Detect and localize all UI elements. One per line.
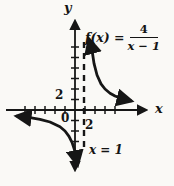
- function-equation-label: f(x) = 4 x − 1: [85, 22, 160, 53]
- origin-label: 0: [61, 112, 69, 124]
- function-fraction: 4 x − 1: [127, 22, 160, 53]
- asymptote-label: x = 1: [89, 144, 123, 156]
- function-prefix: f(x) =: [85, 30, 124, 45]
- fraction-numerator: 4: [130, 22, 158, 38]
- fraction-denominator: x − 1: [127, 38, 160, 53]
- y-axis-label: y: [64, 1, 72, 14]
- x-axis-label: x: [155, 102, 163, 115]
- y-tick-label-2: 2: [55, 89, 63, 101]
- x-tick-label-2: 2: [85, 119, 93, 131]
- function-graph-figure: y x f(x) = 4 x − 1 2 0 2 x = 1: [0, 0, 174, 186]
